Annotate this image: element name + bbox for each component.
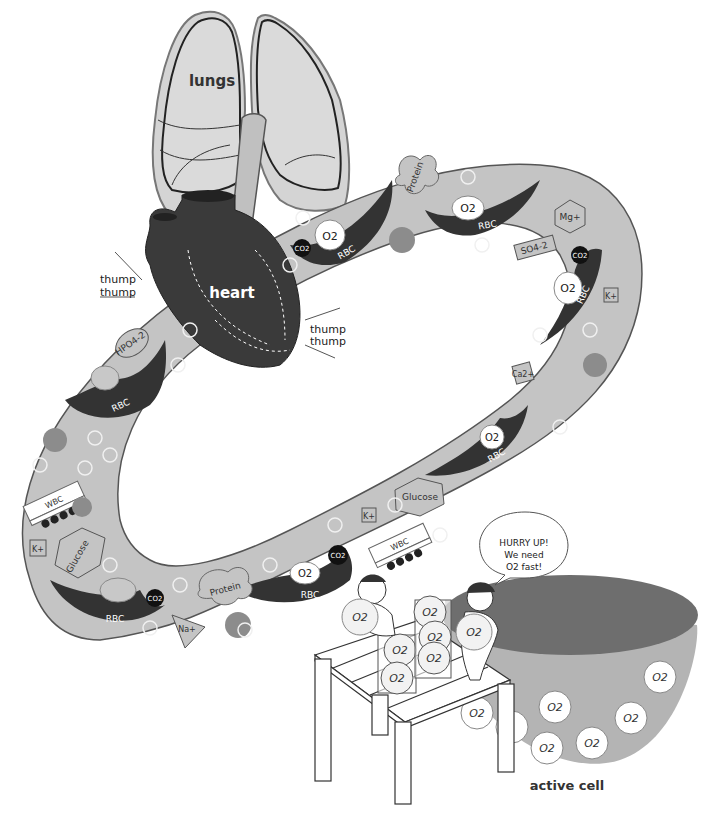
svg-text:O2: O2 — [389, 672, 405, 685]
svg-text:Glucose: Glucose — [402, 492, 438, 502]
ca-ion: Ca2+ — [512, 362, 534, 384]
svg-text:O2: O2 — [352, 611, 368, 624]
svg-text:Mg+: Mg+ — [559, 212, 580, 222]
svg-text:O2: O2 — [422, 606, 438, 619]
svg-text:O2: O2 — [539, 742, 555, 755]
svg-text:O2: O2 — [469, 707, 485, 720]
svg-text:O2: O2 — [392, 644, 408, 657]
svg-text:thump: thump — [100, 286, 136, 299]
svg-text:K+: K+ — [605, 292, 617, 301]
svg-text:K+: K+ — [32, 545, 44, 554]
svg-text:O2: O2 — [584, 737, 600, 750]
heartbeat-left: thump thump — [100, 252, 142, 299]
svg-text:K+: K+ — [363, 512, 375, 521]
svg-text:O2: O2 — [623, 712, 639, 725]
svg-text:CO2: CO2 — [295, 245, 310, 253]
svg-text:HURRY UP!: HURRY UP! — [499, 538, 548, 548]
svg-text:O2: O2 — [298, 568, 312, 579]
heartbeat-right: thump thump — [305, 308, 346, 358]
worker-left: O2 — [342, 575, 395, 636]
svg-text:RBC: RBC — [106, 614, 125, 624]
hco3-ion — [72, 497, 92, 517]
speech-bubble: HURRY UP! We need O2 fast! — [480, 512, 568, 585]
svg-text:O2: O2 — [426, 652, 442, 665]
svg-text:O2: O2 — [460, 202, 476, 215]
heart-label: heart — [209, 284, 255, 302]
svg-text:O2: O2 — [560, 282, 576, 295]
svg-text:O2: O2 — [485, 432, 499, 443]
circulation-diagram: lungs heart thump thump thump thump — [0, 0, 707, 819]
svg-text:O2: O2 — [466, 626, 482, 639]
na-ion: Na+ — [172, 615, 205, 648]
lungs: lungs — [153, 12, 350, 225]
svg-text:O2: O2 — [322, 230, 338, 243]
svg-text:O2: O2 — [652, 671, 668, 684]
svg-text:O2: O2 — [547, 701, 563, 714]
active-cell-label: active cell — [530, 778, 604, 793]
svg-text:Na+: Na+ — [178, 625, 196, 634]
so4-ion: SO4-2 — [514, 235, 557, 260]
svg-text:Ca2+: Ca2+ — [512, 370, 534, 379]
wbc-bottom: WBC — [369, 523, 436, 575]
svg-text:O2 fast!: O2 fast! — [506, 562, 542, 572]
svg-text:We need: We need — [504, 550, 543, 560]
svg-text:thump: thump — [310, 335, 346, 348]
svg-text:thump: thump — [100, 273, 136, 286]
svg-text:CO2: CO2 — [573, 252, 588, 260]
svg-text:CO2: CO2 — [331, 552, 346, 560]
svg-text:RBC: RBC — [301, 590, 320, 600]
lungs-label: lungs — [189, 72, 235, 90]
svg-text:RBC: RBC — [477, 219, 497, 232]
svg-text:CO2: CO2 — [148, 595, 163, 603]
